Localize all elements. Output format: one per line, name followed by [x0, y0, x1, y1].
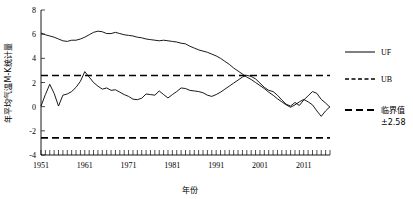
mann-kendall-chart: 86420-2-4 1951196119711981199120012011 年…	[0, 0, 413, 199]
legend-label-ub: UB	[381, 75, 392, 84]
y-tick-label: -2	[29, 127, 36, 136]
y-tick-label: 0	[32, 103, 36, 112]
x-tick-label: 2011	[296, 161, 312, 170]
x-tick-label: 2001	[252, 161, 268, 170]
x-tick-label: 1981	[164, 161, 180, 170]
x-tick-label: 1971	[121, 161, 137, 170]
legend-label-threshold-value: ±2.58	[381, 118, 406, 127]
legend-label-uf: UF	[381, 48, 392, 57]
y-tick-label: 8	[32, 6, 36, 15]
legend-item-uf[interactable]: UF	[345, 48, 392, 57]
y-axis-title: 年平均气温M-K统计量	[3, 43, 13, 122]
x-axis-title: 年份	[182, 185, 198, 195]
series-line-ub	[41, 31, 330, 116]
legend: UF UB 临界值 ±2.58	[345, 48, 406, 127]
legend-item-threshold[interactable]: 临界值 ±2.58	[345, 105, 406, 127]
y-tick-label: -4	[29, 151, 36, 160]
y-tick-label: 6	[32, 30, 36, 39]
y-tick-label: 2	[32, 79, 36, 88]
x-tick-label: 1951	[33, 161, 49, 170]
y-axis-ticks	[41, 10, 45, 155]
y-tick-label: 4	[32, 54, 36, 63]
y-axis-tick-labels: 86420-2-4	[29, 6, 36, 160]
series-line-uf	[41, 72, 330, 108]
chart-container: 86420-2-4 1951196119711981199120012011 年…	[0, 0, 413, 199]
x-tick-label: 1991	[208, 161, 224, 170]
legend-item-ub[interactable]: UB	[345, 75, 392, 84]
x-tick-label: 1961	[77, 161, 93, 170]
x-axis-tick-labels: 1951196119711981199120012011	[33, 161, 312, 170]
x-axis-ticks	[41, 150, 330, 155]
legend-label-threshold: 临界值	[381, 105, 405, 115]
